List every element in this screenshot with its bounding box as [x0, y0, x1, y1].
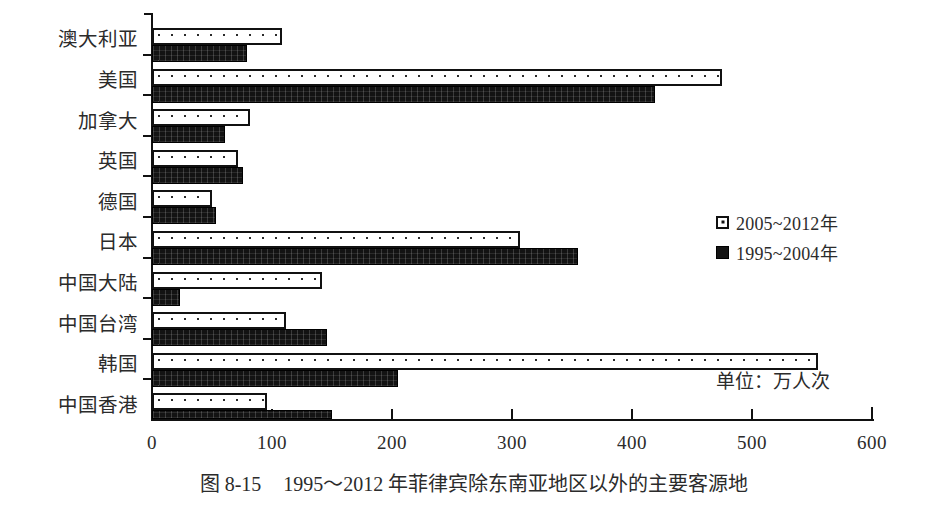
bar-dotted-2: [152, 109, 250, 126]
category-label: 加拿大: [78, 112, 138, 132]
figure-container: 澳大利亚 美国 加拿大 英国 德国 日本 中国大陆 中国台湾 韩国 中国香港: [0, 0, 948, 511]
legend-item-1: 1995~2004年: [716, 237, 838, 267]
bar-dotted-3: [152, 150, 238, 167]
x-tick-label: 200: [377, 432, 407, 454]
bar-dotted-4: [152, 190, 212, 207]
bar-solid-6: [152, 289, 180, 306]
x-axis-tick: [511, 409, 513, 420]
category-label: 美国: [98, 71, 138, 91]
bar-dotted-1: [152, 69, 722, 86]
legend-swatch-solid-icon: [716, 246, 729, 259]
y-axis-top-cap: [144, 13, 153, 15]
category-label: 澳大利亚: [58, 31, 138, 51]
bar-dotted-0: [152, 28, 282, 45]
x-tick-label: 600: [857, 432, 887, 454]
caption-text: 1995～2012 年菲律宾除东南亚地区以外的主要客源地: [283, 473, 748, 495]
category-axis-labels: 澳大利亚 美国 加拿大 英国 德国 日本 中国大陆 中国台湾 韩国 中国香港: [0, 14, 148, 420]
category-label: 韩国: [98, 355, 138, 375]
x-tick-label: 0: [147, 432, 157, 454]
category-label: 日本: [98, 234, 138, 254]
x-axis-end-cap: [871, 407, 873, 420]
legend-label-1: 1995~2004年: [736, 239, 838, 265]
category-label: 中国香港: [58, 396, 138, 416]
bar-solid-8: [152, 370, 398, 387]
bar-dotted-7: [152, 312, 286, 329]
category-label: 德国: [98, 193, 138, 213]
category-label: 中国大陆: [58, 274, 138, 294]
bar-dotted-9: [152, 393, 267, 410]
unit-note: 单位：万人次: [716, 366, 830, 393]
bar-solid-5: [152, 248, 578, 265]
legend-swatch-dotted-icon: [716, 216, 729, 229]
category-label: 英国: [98, 152, 138, 172]
legend-label-0: 2005~2012年: [736, 209, 838, 235]
bar-dotted-6: [152, 272, 322, 289]
legend: 2005~2012年 1995~2004年: [716, 207, 838, 267]
x-tick-label: 500: [737, 432, 767, 454]
bar-solid-0: [152, 45, 247, 62]
x-axis-tick: [631, 409, 633, 420]
bar-solid-4: [152, 207, 216, 224]
legend-item-0: 2005~2012年: [716, 207, 838, 237]
x-tick-label: 400: [617, 432, 647, 454]
x-tick-label: 100: [257, 432, 287, 454]
figure-number: 图 8-15: [200, 473, 262, 495]
bar-solid-9: [152, 410, 332, 419]
bar-solid-2: [152, 126, 225, 143]
bar-solid-3: [152, 167, 243, 184]
bar-dotted-5: [152, 231, 520, 248]
figure-caption: 图 8-151995～2012 年菲律宾除东南亚地区以外的主要客源地: [0, 468, 948, 497]
bar-solid-1: [152, 86, 655, 103]
x-tick-label: 300: [497, 432, 527, 454]
category-label: 中国台湾: [58, 315, 138, 335]
bar-solid-7: [152, 329, 327, 346]
x-axis-tick: [391, 409, 393, 420]
x-axis-tick: [751, 409, 753, 420]
